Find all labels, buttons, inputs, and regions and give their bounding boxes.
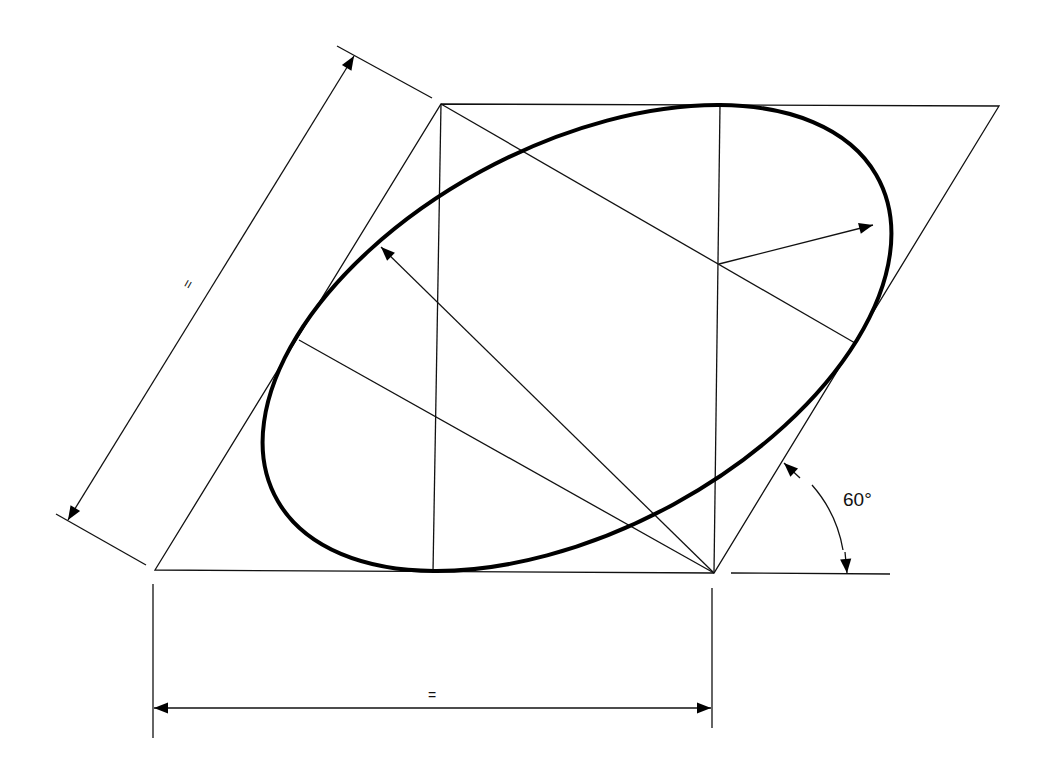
ellipse-construction-diagram: = = 60° bbox=[0, 0, 1056, 784]
side-extension-top bbox=[337, 46, 432, 98]
angle-arc bbox=[812, 485, 843, 550]
side-extension-bottom bbox=[56, 514, 146, 565]
angle-arc-arrow-top bbox=[784, 463, 800, 478]
width-dimension-label: = bbox=[428, 687, 436, 703]
side-dimension-label: = bbox=[179, 276, 197, 291]
side-dimension-line bbox=[211, 56, 354, 288]
vertical-construction-left bbox=[433, 104, 441, 572]
construction-line-bottom bbox=[299, 340, 714, 573]
angle-label: 60° bbox=[843, 489, 872, 510]
radius-arrow-left bbox=[381, 247, 714, 573]
vertical-construction-right bbox=[714, 105, 720, 573]
angle-baseline-extension bbox=[731, 573, 890, 574]
construction-line-top bbox=[441, 104, 855, 343]
side-dimension-line-lower bbox=[68, 288, 211, 520]
radius-arrow-right bbox=[719, 225, 873, 264]
angle-arc-arrow-bottom bbox=[845, 552, 847, 573]
